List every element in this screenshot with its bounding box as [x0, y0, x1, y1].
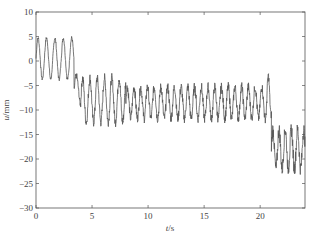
y-tick-label: 5: [29, 32, 34, 42]
x-tick-label: 10: [144, 211, 154, 221]
x-tick-label: 20: [256, 211, 266, 221]
chart: 051015201050−5−10−15−20−25−30 t/s u/mm: [0, 0, 312, 234]
x-tick-label: 15: [200, 211, 210, 221]
y-tick-label: −10: [19, 105, 34, 115]
x-tick-label: 0: [34, 211, 39, 221]
y-tick-label: −25: [19, 179, 34, 189]
y-tick-label: 10: [24, 7, 34, 17]
ticks: [36, 12, 305, 208]
plot-frame: [36, 12, 305, 208]
y-axis-label: u/mm: [1, 99, 11, 120]
y-tick-label: −30: [19, 203, 34, 213]
y-tick-label: −5: [23, 81, 33, 91]
y-tick-label: −15: [19, 130, 34, 140]
y-tick-label: −20: [19, 154, 34, 164]
x-tick-label: 5: [90, 211, 95, 221]
x-axis-label: t/s: [166, 223, 175, 233]
series-line-u: [36, 36, 305, 174]
y-tick-label: 0: [29, 56, 34, 66]
